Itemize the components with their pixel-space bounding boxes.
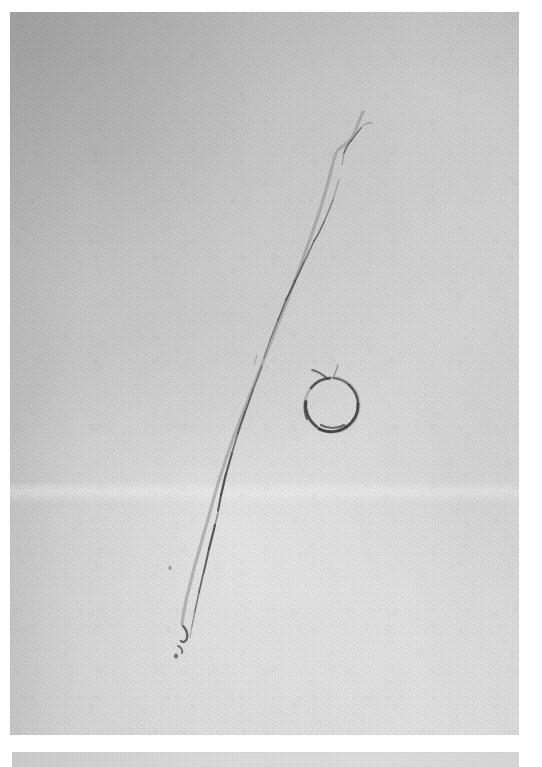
panel-grain-fine [10, 12, 519, 735]
crack-core [168, 123, 372, 638]
figure-root [0, 0, 542, 767]
panel-grain-specks [10, 12, 519, 735]
panel-mottling [10, 12, 519, 735]
panel-vertical-shading [10, 12, 519, 735]
crack-halo [182, 112, 363, 624]
secondary-strip-panel [12, 752, 519, 767]
strip-shading [12, 752, 519, 767]
light-horizontal-seam [10, 481, 519, 503]
panel-corner-vignette [10, 12, 519, 735]
main-photograph-panel [10, 12, 519, 735]
panel-grain-weave [10, 12, 519, 735]
hook-mark-glyph [174, 626, 187, 659]
ring-mark-glyph [305, 365, 359, 432]
panel-horizontal-shading [10, 12, 519, 735]
crack-speck [168, 566, 171, 570]
feature-overlay [10, 12, 519, 735]
panel-highlight [10, 12, 519, 735]
